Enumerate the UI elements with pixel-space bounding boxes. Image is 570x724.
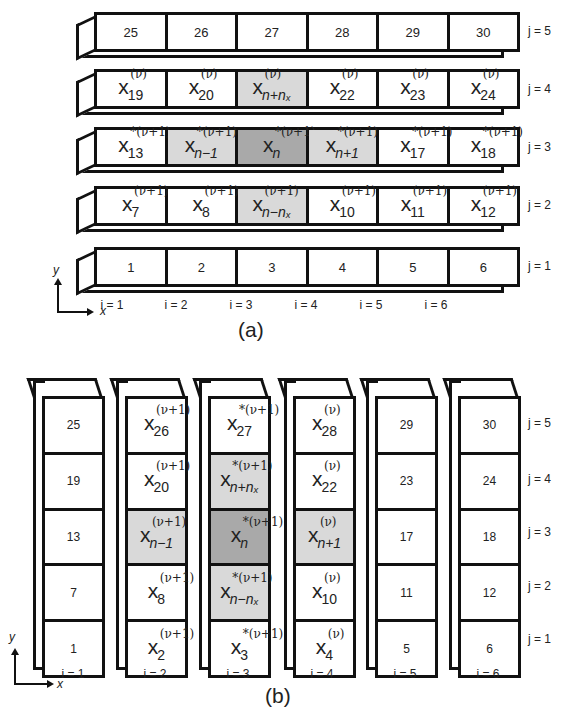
- cell-variable: xn−nₓ*(ν+1): [220, 580, 259, 606]
- cell-variable: x3*(ν+1): [231, 636, 248, 662]
- cell-index: 12: [483, 586, 496, 600]
- grid-cell: x22(ν): [296, 455, 353, 511]
- i-label: i = 6: [406, 298, 466, 312]
- grid-cell: 4: [309, 250, 380, 284]
- cell-index: 30: [483, 418, 496, 432]
- cell-variable: xn+nₓ*(ν+1): [220, 468, 259, 494]
- grid-cell: x17*(ν+1): [379, 130, 450, 164]
- i-label: i = 2: [125, 667, 185, 681]
- grid-cell: 2: [168, 250, 239, 284]
- cell-variable: x10(ν+1): [330, 193, 355, 219]
- grid-cell: x10(ν+1): [309, 189, 380, 223]
- row-front: x19(ν)x20(ν)xn+nₓ(ν)x22(ν)x23(ν)x24(ν): [94, 69, 520, 109]
- j-label: j = 4: [528, 82, 551, 96]
- cell-variable: x20(ν+1): [144, 468, 169, 494]
- cell-index: 29: [400, 418, 413, 432]
- cell-index: 28: [335, 25, 349, 40]
- grid-cell: x26(ν+1): [128, 399, 185, 455]
- cell-variable: x18*(ν+1): [471, 134, 496, 160]
- column-front: 292317115: [375, 396, 438, 678]
- cell-index: 3: [268, 260, 275, 275]
- grid-cell: x18*(ν+1): [450, 130, 518, 164]
- grid-cell: x20(ν): [168, 72, 239, 106]
- caption-a: (a): [238, 318, 264, 342]
- grid-cell: 6: [450, 250, 518, 284]
- grid-cell: xn+nₓ(ν): [238, 72, 309, 106]
- grid-cell: xn+nₓ*(ν+1): [211, 455, 268, 511]
- row-j3: x13*(ν+1)xn−1*(ν+1)xn*(ν+1)xn+1*(ν+1)x17…: [76, 127, 520, 173]
- grid-cell: x8(ν+1): [128, 566, 185, 622]
- cell-variable: x4(ν): [316, 636, 333, 662]
- j-label: j = 3: [528, 525, 551, 539]
- cell-variable: x10(ν): [312, 580, 337, 606]
- cell-index: 6: [480, 260, 487, 275]
- cell-index: 1: [70, 642, 77, 656]
- j-label: j = 2: [528, 579, 551, 593]
- grid-cell: 30: [450, 15, 518, 49]
- grid-cell: 13: [45, 511, 102, 567]
- column-i6: 302418126: [449, 378, 521, 680]
- cell-variable: xn+1*(ν+1): [326, 134, 359, 160]
- grid-cell: x27*(ν+1): [211, 399, 268, 455]
- grid-cell: x13*(ν+1): [97, 130, 168, 164]
- cell-variable: x13*(ν+1): [118, 134, 143, 160]
- cell-variable: x24(ν): [471, 76, 496, 102]
- i-label: i = 5: [375, 667, 435, 681]
- column-i1: 25191371: [33, 378, 105, 680]
- cell-variable: x11(ν+1): [401, 193, 425, 219]
- i-label: i = 3: [208, 667, 268, 681]
- column-i4: x28(ν)x22(ν)xn+1(ν)x10(ν)x4(ν): [284, 378, 356, 680]
- cell-index: 11: [400, 586, 412, 600]
- grid-cell: x28(ν): [296, 399, 353, 455]
- j-label: j = 2: [528, 198, 551, 212]
- cell-index: 26: [194, 25, 208, 40]
- i-label: i = 4: [276, 298, 336, 312]
- cell-variable: xn−1(ν+1): [140, 524, 173, 550]
- grid-cell: xn*(ν+1): [211, 511, 268, 567]
- cell-variable: x19(ν): [118, 76, 143, 102]
- x-axis-line: [57, 311, 87, 313]
- grid-cell: 27: [238, 15, 309, 49]
- cell-index: 1: [127, 260, 134, 275]
- j-label: j = 5: [528, 24, 551, 38]
- x-axis-line: [14, 683, 48, 685]
- column-i2: x26(ν+1)x20(ν+1)xn−1(ν+1)x8(ν+1)x2(ν+1): [116, 378, 188, 680]
- cell-variable: x22(ν): [330, 76, 355, 102]
- i-label: i = 5: [341, 298, 401, 312]
- x-axis-arrow-icon: [87, 308, 94, 316]
- j-label: j = 5: [528, 416, 551, 430]
- row-front: x7(ν+1)x8(ν+1)xn−nₓ(ν+1)x10(ν+1)x11(ν+1)…: [94, 186, 520, 226]
- j-label: j = 1: [528, 259, 551, 273]
- cell-variable: x27*(ν+1): [227, 412, 252, 438]
- grid-cell: 26: [168, 15, 239, 49]
- j-label: j = 3: [528, 140, 551, 154]
- grid-cell: x19(ν): [97, 72, 168, 106]
- grid-cell: 7: [45, 566, 102, 622]
- column-front: x28(ν)x22(ν)xn+1(ν)x10(ν)x4(ν): [293, 396, 356, 678]
- row-j4: x19(ν)x20(ν)xn+nₓ(ν)x22(ν)x23(ν)x24(ν): [76, 69, 520, 115]
- row-front: x13*(ν+1)xn−1*(ν+1)xn*(ν+1)xn+1*(ν+1)x17…: [94, 127, 520, 167]
- cell-index: 29: [406, 25, 420, 40]
- grid-cell: 25: [97, 15, 168, 49]
- grid-cell: xn−nₓ(ν+1): [238, 189, 309, 223]
- cell-index: 27: [265, 25, 279, 40]
- column-front: 302418126: [458, 396, 521, 678]
- row-front: 252627282930: [94, 12, 520, 52]
- grid-cell: x8(ν+1): [168, 189, 239, 223]
- grid-cell: 18: [461, 511, 518, 567]
- grid-cell: 12: [461, 566, 518, 622]
- grid-cell: 19: [45, 455, 102, 511]
- cell-variable: x28(ν): [312, 412, 337, 438]
- column-front: 25191371: [42, 396, 105, 678]
- cell-variable: x23(ν): [400, 76, 425, 102]
- cell-index: 13: [67, 530, 80, 544]
- cell-index: 5: [403, 642, 410, 656]
- grid-cell: 3: [238, 250, 309, 284]
- cell-variable: xn+nₓ(ν): [252, 76, 291, 102]
- y-axis-label: y: [9, 630, 15, 644]
- cell-index: 18: [483, 530, 496, 544]
- column-i3: x27*(ν+1)xn+nₓ*(ν+1)xn*(ν+1)xn−nₓ*(ν+1)x…: [199, 378, 271, 680]
- x-axis-label: x: [100, 304, 106, 318]
- j-label: j = 4: [528, 472, 551, 486]
- grid-cell: 30: [461, 399, 518, 455]
